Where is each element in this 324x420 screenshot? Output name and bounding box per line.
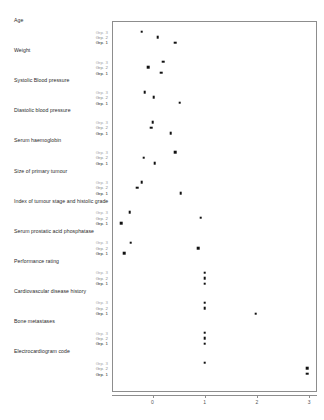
group-label: Grp. 1 [78,311,108,316]
variable-label: Size of primary tumour [14,168,67,174]
data-point [203,332,206,335]
data-point [160,72,163,75]
group-label: Grp. 2 [78,35,108,40]
group-label: Grp. 2 [78,246,108,251]
data-point [203,337,206,340]
data-point [152,96,155,99]
group-label: Grp. 1 [78,191,108,196]
data-point [136,186,139,189]
group-label: Grp. 3 [78,60,108,65]
data-point [169,132,172,135]
x-axis-tick-label: 0 [151,399,154,405]
data-point [306,367,309,370]
data-point [151,121,154,124]
group-label: Grp. 3 [78,120,108,125]
variable-label: Electrocardiogram code [14,348,70,354]
group-label: Grp. 3 [78,210,108,215]
variable-label: Weight [14,47,30,53]
data-point [203,271,206,274]
data-point [203,282,206,285]
group-label: Grp. 3 [78,240,108,245]
group-label: Grp. 1 [78,40,108,45]
x-axis-tick [205,395,206,398]
group-label: Grp. 3 [78,30,108,35]
data-point [179,192,182,195]
group-label: Grp. 2 [78,125,108,130]
data-point [203,342,206,345]
dot-plot-chart: AgeGrp. 3Grp. 2Grp. 1WeightGrp. 3Grp. 2G… [0,0,324,420]
group-label: Grp. 3 [78,361,108,366]
data-point [174,41,177,44]
variable-label: Performance rating [14,258,59,264]
variable-label: Serum haemoglobin [14,137,61,143]
group-label: Grp. 2 [78,155,108,160]
data-point [120,222,123,225]
data-point [306,373,309,376]
data-point [143,91,146,94]
data-point [153,162,156,165]
plot-frame [112,21,317,392]
group-label: Grp. 3 [78,331,108,336]
group-label: Grp. 1 [78,161,108,166]
data-point [147,66,150,69]
data-point [150,126,153,129]
variable-label: Bone metastases [14,318,55,324]
group-label: Grp. 2 [78,336,108,341]
data-point [128,211,131,214]
group-label: Grp. 2 [78,216,108,221]
group-label: Grp. 2 [78,366,108,371]
data-point [199,217,202,220]
x-axis-tick-label: 1 [203,399,206,405]
x-axis-tick-label: 3 [308,399,311,405]
data-point [178,102,181,105]
group-label: Grp. 1 [78,341,108,346]
variable-label: Age [14,17,23,23]
group-label: Grp. 1 [78,101,108,106]
group-label: Grp. 1 [78,372,108,377]
data-point [156,36,159,39]
data-point [197,247,200,250]
group-label: Grp. 3 [78,270,108,275]
data-point [203,307,206,310]
x-axis-tick [309,395,310,398]
group-label: Grp. 1 [78,221,108,226]
x-axis-tick [153,395,154,398]
x-axis-tick-label: 2 [256,399,259,405]
data-point [255,312,258,315]
data-point [203,277,206,280]
data-point [174,151,177,154]
group-label: Grp. 1 [78,131,108,136]
group-label: Grp. 2 [78,95,108,100]
data-point [140,31,143,34]
variable-label: Diastolic blood pressure [14,107,71,113]
group-label: Grp. 2 [78,65,108,70]
group-label: Grp. 2 [78,185,108,190]
data-point [123,252,126,255]
data-point [142,156,145,159]
data-point [140,181,143,184]
variable-label: Serum prostatic acid phosphatase [14,228,94,234]
data-point [203,301,206,304]
data-point [203,362,206,365]
variable-label: Cardiovascular disease history [14,288,86,294]
group-label: Grp. 1 [78,251,108,256]
group-label: Grp. 1 [78,71,108,76]
group-label: Grp. 3 [78,180,108,185]
group-label: Grp. 1 [78,281,108,286]
group-label: Grp. 3 [78,300,108,305]
group-label: Grp. 2 [78,276,108,281]
data-point [129,241,132,244]
data-point [162,61,165,64]
x-axis-tick [257,395,258,398]
variable-label: Index of tumour stage and histolic grade [14,198,108,204]
group-label: Grp. 2 [78,306,108,311]
group-label: Grp. 3 [78,90,108,95]
x-axis-line [112,395,317,396]
group-label: Grp. 3 [78,150,108,155]
variable-label: Systolic Blood pressure [14,77,69,83]
